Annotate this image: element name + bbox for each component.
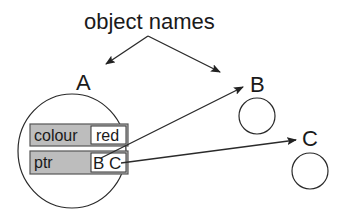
field-ptr: ptr B C [30,151,128,174]
title-arrows [106,36,220,72]
field-ptr-label: ptr [34,154,53,171]
object-c-circle [292,153,328,189]
field-colour: colour red [30,124,128,146]
field-colour-label: colour [34,127,78,144]
pointer-arrows [101,87,296,163]
field-ptr-value-c: C [109,154,121,173]
object-a-label: A [76,70,91,95]
object-b-circle [239,98,275,134]
object-b-label: B [250,72,265,97]
object-c-label: C [302,126,318,151]
field-colour-value: red [96,127,119,144]
title-label: object names [84,9,215,34]
diagram-canvas: object names A colour red ptr B C B C [0,0,347,214]
